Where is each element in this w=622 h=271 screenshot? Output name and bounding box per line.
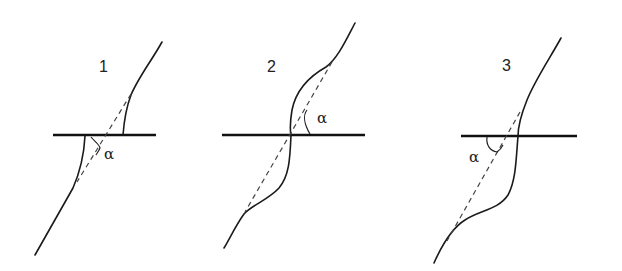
panel-3-label: 3: [502, 57, 511, 74]
panel-2-label: 2: [267, 58, 276, 75]
panel-3-angle-arc: [487, 137, 503, 152]
panel-3-alpha-label: α: [469, 148, 479, 166]
panel-1-alpha-label: α: [104, 145, 114, 163]
panel-2: 2 α: [222, 23, 365, 248]
panel-1-lower-curve: [35, 136, 85, 255]
panel-1: 1 α: [35, 42, 162, 255]
panel-1-upper-curve: [123, 42, 162, 135]
panel-3: 3 α: [434, 38, 577, 263]
panel-2-angle-arc: [305, 110, 310, 134]
diagram-canvas: 1 α 2 α 3 α: [0, 0, 622, 271]
panel-2-alpha-label: α: [317, 109, 327, 127]
panel-3-dashed-chord: [447, 112, 520, 241]
panel-1-label: 1: [99, 58, 108, 75]
panel-1-angle-arc: [91, 137, 100, 155]
panel-2-dashed-chord: [245, 62, 332, 212]
